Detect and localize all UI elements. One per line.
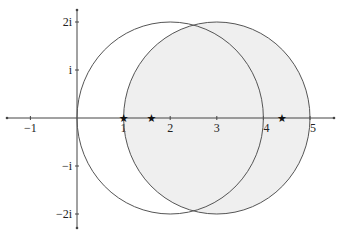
imag-tick-label: 2i bbox=[63, 15, 73, 29]
real-tick-label: 2 bbox=[167, 121, 173, 135]
star-3-icon: ★ bbox=[277, 112, 287, 125]
real-tick-label: 4 bbox=[263, 121, 269, 135]
real-axis-right-end-dot bbox=[333, 117, 336, 120]
real-axis-left-end-dot bbox=[6, 117, 9, 120]
real-tick-label: 5 bbox=[310, 121, 316, 135]
imag-tick-label: i bbox=[69, 63, 73, 77]
star-1-icon: ★ bbox=[119, 112, 129, 125]
imag-axis-top-end-dot bbox=[76, 9, 79, 12]
complex-plane-diagram: −1123452ii−i−2i ★★★ bbox=[0, 0, 338, 232]
imag-tick-label: −i bbox=[62, 159, 73, 173]
star-2-icon: ★ bbox=[147, 112, 157, 125]
real-tick-label: −1 bbox=[24, 121, 37, 135]
imag-tick-label: −2i bbox=[56, 207, 73, 221]
real-tick-label: 3 bbox=[214, 121, 220, 135]
imag-axis-bottom-end-dot bbox=[76, 227, 79, 230]
